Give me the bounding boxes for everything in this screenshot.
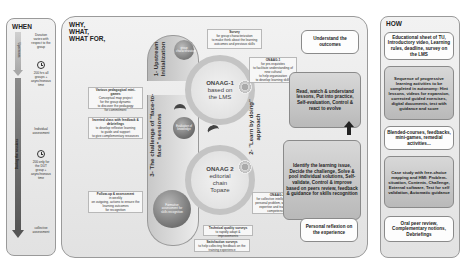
onaag1-title: ONAAG-1 — [206, 80, 234, 87]
upstream-label: 1- Upstream Initialization — [153, 29, 167, 89]
group-characterization-sphere: group characterization — [174, 40, 194, 60]
when-title: WHEN — [12, 23, 32, 31]
note-inverted-class: Inverted class with feedback & debriefin… — [88, 117, 143, 139]
note-survey: Survey for group characterizationto make… — [207, 29, 262, 49]
when-item-collective-assessment: collective assessment — [31, 227, 51, 235]
onaag2-ring: ONAAG 2 editorial chain Topaze — [185, 145, 255, 215]
learn-by-doing-label: 2- "Learn by doing" approach — [248, 92, 262, 162]
onaag2-title: ONAAG 2 — [206, 166, 233, 173]
during-sessions-label: During the sessions — [16, 124, 20, 184]
box-identify-issue: Identify the learning issue, Decide the … — [283, 140, 361, 220]
how-box-educational-sheet: Educational sheet of TU, Introductory vi… — [384, 32, 454, 60]
onaag2-line2: editorial — [206, 173, 233, 180]
onaag2-line3: chain — [206, 180, 233, 187]
how-title: HOW — [386, 20, 402, 28]
how-box-sequence: Sequence of progressive learning activit… — [384, 66, 454, 120]
challenge-label: 3- The challenge of "face-to-face" sessi… — [148, 90, 162, 180]
curved-arrow-icon — [174, 104, 186, 118]
flower-icon — [238, 160, 252, 174]
formative-assessment-sphere: Formative assessment for skills recognit… — [153, 190, 191, 228]
onaag1-line3: the LMS — [206, 94, 234, 101]
when-item-hours-all: 200 hrs all groups + asynchronous time — [31, 72, 51, 88]
how-box-case-study: Case study with free-choice mapping and … — [384, 156, 454, 208]
why-title-3: WHAT FOR, — [69, 35, 105, 43]
when-item-duration: Duration varies with respect to the grou… — [31, 34, 51, 50]
note-minigames: Various pedagogical mini-games Conceptua… — [88, 87, 143, 109]
evaluation-sphere: Evaluation of knowledge — [173, 117, 195, 139]
up-arrow-icon — [345, 121, 353, 135]
clock-icon — [37, 150, 45, 158]
upstream-label: Upstream — [16, 34, 20, 66]
when-item-hours-dut: 200 only for the DUT group + asynchronou… — [31, 161, 51, 181]
note-follow-up: Follow-up & assessment in weeklyon outgo… — [88, 191, 143, 213]
onaag1-line2: based on — [206, 87, 234, 94]
when-item-individual-assessment: Individual assessment — [31, 128, 51, 136]
how-box-oral-review: Oral peer review, Complementary notions,… — [384, 216, 454, 242]
box-personal-reflexion: Personal reflexion on the experience — [300, 218, 358, 242]
onaag2-line4: Topaze — [206, 187, 233, 194]
box-read-watch: Read, watch & understand lessons, Put in… — [289, 72, 361, 128]
how-box-blended: Blended-courses, feedbacks, mini-games, … — [384, 126, 454, 150]
clock-icon — [37, 61, 45, 69]
box-understand-outcomes: Understand the outcomes — [301, 30, 359, 54]
note-satisfaction-surveys: Satisfaction surveys to help collecting … — [194, 239, 250, 252]
note-technical-surveys: Technical quality surveys to rapidly ada… — [203, 225, 253, 236]
